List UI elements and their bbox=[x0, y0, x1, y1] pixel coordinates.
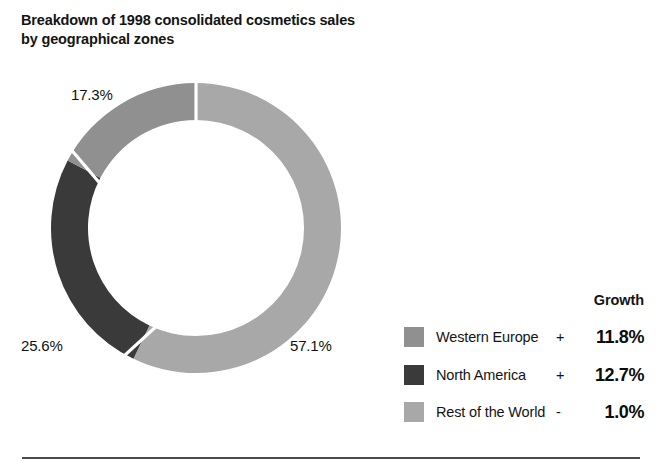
legend-label-western-europe: Western Europe bbox=[436, 329, 538, 345]
legend-swatch-western-europe bbox=[404, 327, 424, 347]
bottom-divider bbox=[22, 457, 640, 459]
legend-growth-header: Growth bbox=[594, 292, 644, 308]
legend-row: North America + 12.7% bbox=[404, 363, 644, 387]
legend-value-rest-of-world: 1.0% bbox=[605, 402, 644, 423]
donut-chart bbox=[46, 78, 346, 378]
legend-sign-western-europe: + bbox=[556, 329, 564, 345]
legend-value-north-america: 12.7% bbox=[595, 365, 644, 386]
slice-label-rest-of-world: 57.1% bbox=[290, 337, 332, 354]
legend-sign-north-america: + bbox=[556, 367, 564, 383]
legend-label-north-america: North America bbox=[436, 367, 526, 383]
legend-sign-rest-of-world: - bbox=[556, 404, 561, 420]
legend-row: Western Europe + 11.8% bbox=[404, 325, 644, 349]
chart-title: Breakdown of 1998 consolidated cosmetics… bbox=[21, 11, 421, 49]
legend-row: Rest of the World - 1.0% bbox=[404, 400, 644, 424]
slice-label-north-america: 25.6% bbox=[21, 337, 63, 354]
legend-label-rest-of-world: Rest of the World bbox=[436, 404, 545, 420]
slice-label-western-europe: 17.3% bbox=[71, 86, 113, 103]
donut-slice-rest-of-the-world bbox=[133, 83, 341, 373]
legend-value-western-europe: 11.8% bbox=[596, 327, 644, 348]
legend-swatch-north-america bbox=[404, 365, 424, 385]
donut-slice-north-america bbox=[51, 161, 149, 359]
legend-swatch-rest-of-world bbox=[404, 402, 424, 422]
chart-figure: Breakdown of 1998 consolidated cosmetics… bbox=[0, 0, 661, 470]
donut-chart-svg bbox=[46, 78, 346, 378]
